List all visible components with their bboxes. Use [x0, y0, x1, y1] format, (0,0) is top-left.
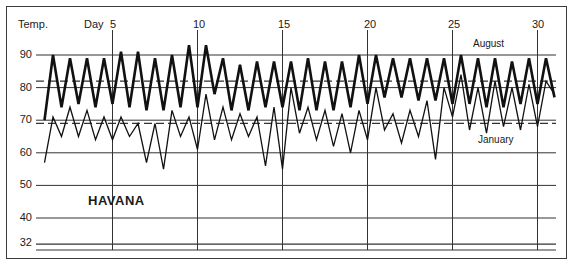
y-tick-60: 60 — [6, 146, 32, 158]
august-label: August — [473, 38, 504, 49]
january-label: January — [478, 134, 514, 145]
x-tick-30: 30 — [532, 18, 544, 30]
x-tick-15: 15 — [278, 18, 290, 30]
y-tick-90: 90 — [6, 48, 32, 60]
y-tick-32: 32 — [6, 236, 32, 248]
y-axis-label: Temp. — [18, 18, 48, 30]
x-tick-10: 10 — [193, 18, 205, 30]
city-title: HAVANA — [88, 193, 145, 208]
x-tick-25: 25 — [448, 18, 460, 30]
y-tick-40: 40 — [6, 211, 32, 223]
y-tick-80: 80 — [6, 81, 32, 93]
x-tick-20: 20 — [364, 18, 376, 30]
y-tick-50: 50 — [6, 178, 32, 190]
x-tick-5: 5 — [110, 18, 116, 30]
august-series-line — [45, 45, 555, 120]
y-tick-70: 70 — [6, 113, 32, 125]
january-series-line — [45, 75, 555, 170]
x-axis-label: Day — [84, 18, 104, 30]
